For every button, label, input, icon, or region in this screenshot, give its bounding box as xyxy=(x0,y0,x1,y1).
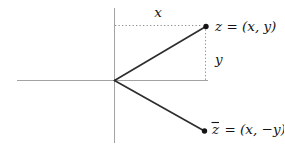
segment-origin-to-z xyxy=(115,27,206,81)
y-distance-label: y xyxy=(214,51,223,67)
complex-plane-figure: x y z = (x, y) z = (x, −y) xyxy=(0,0,284,152)
segment-origin-to-z-conjugate xyxy=(115,81,204,131)
point-z xyxy=(203,24,208,29)
z-conjugate-symbol-label: z xyxy=(211,121,220,137)
diagram-canvas: x y z = (x, y) z = (x, −y) xyxy=(0,0,284,152)
x-distance-label: x xyxy=(154,4,162,20)
z-conjugate-value-label: = (x, −y) xyxy=(225,121,285,137)
z-point-label: z = (x, y) xyxy=(214,18,276,34)
point-z-conjugate xyxy=(202,128,207,133)
